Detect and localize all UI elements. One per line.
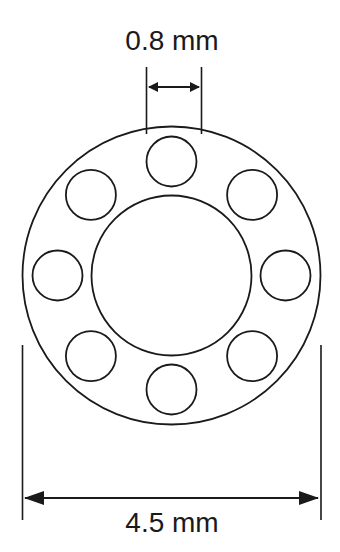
outer-diameter-label: 4.5 mm	[125, 507, 218, 538]
small-circles-group	[33, 137, 311, 415]
small-circle	[147, 365, 197, 415]
diagram-canvas: 0.8 mm 4.5 mm	[0, 0, 340, 552]
small-circle	[33, 251, 83, 301]
small-circle	[66, 170, 116, 220]
small-circle	[227, 331, 277, 381]
outer-circle	[23, 127, 321, 425]
small-circle	[147, 137, 197, 187]
small-circle	[66, 331, 116, 381]
small-circle	[227, 170, 277, 220]
small-diameter-label: 0.8 mm	[125, 25, 218, 56]
inner-circle	[92, 196, 252, 356]
small-circle	[261, 251, 311, 301]
